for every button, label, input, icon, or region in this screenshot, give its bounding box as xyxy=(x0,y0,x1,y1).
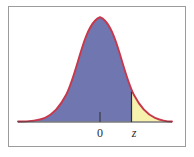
shaded-area-left-of-z xyxy=(18,17,172,121)
axis-label-z: z xyxy=(127,127,141,139)
axis-label-zero: 0 xyxy=(93,127,107,139)
normal-curve-figure: 0 z xyxy=(0,0,194,157)
